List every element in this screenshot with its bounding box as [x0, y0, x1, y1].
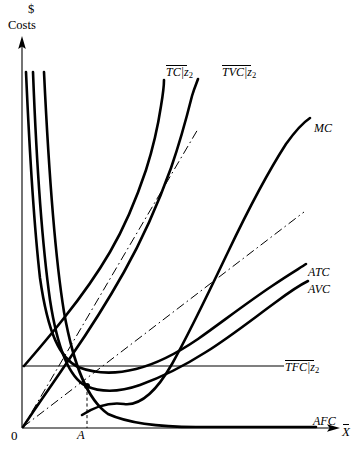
cost-curves-figure: $ Costs TC|z2 TVC|z2 MC ATC AVC TFC|z2 A…	[0, 0, 363, 460]
tfc-curve-label: TFC|z2	[285, 361, 319, 374]
tangency-point-dot	[84, 383, 90, 389]
avc-curve-label: AVC	[308, 283, 330, 295]
x-tick-label-a: A	[77, 429, 85, 442]
tfc-curve-label-subscript: 2	[315, 365, 319, 375]
mc-curve	[82, 118, 310, 415]
tvc-curve-label: TVC|z2	[222, 66, 256, 79]
afc-curve	[44, 72, 316, 427]
tvc-curve-label-subscript: 2	[252, 70, 256, 80]
y-axis	[18, 36, 26, 428]
y-axis-title: Costs	[8, 19, 36, 32]
afc-curve-label: AFC	[313, 415, 336, 427]
atc-curve-label: ATC	[308, 266, 330, 278]
tc-curve-label-text: TC|z	[166, 66, 189, 78]
y-axis-currency-label: $	[28, 3, 34, 16]
tc-curve-label-subscript: 2	[189, 70, 193, 80]
avc-curve	[33, 72, 308, 391]
origin-label: 0	[11, 429, 18, 442]
x-axis-label: X	[342, 425, 350, 438]
tfc-curve-label-text: TFC|z	[285, 361, 315, 373]
tc-curve-label: TC|z2	[166, 66, 193, 79]
mc-curve-label: MC	[314, 122, 332, 134]
x-axis-label-text: X	[342, 425, 350, 438]
tvc-curve-label-text: TVC|z	[222, 66, 252, 78]
